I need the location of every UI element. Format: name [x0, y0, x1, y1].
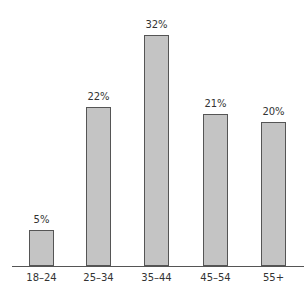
x-tick-label: 25–34	[74, 272, 124, 283]
bar-4	[261, 122, 286, 266]
x-axis-line	[12, 266, 304, 267]
value-label: 20%	[249, 106, 299, 117]
value-label: 22%	[74, 91, 124, 102]
x-tick-label: 35–44	[132, 272, 182, 283]
value-label: 5%	[17, 214, 67, 225]
x-tick-label: 45–54	[191, 272, 241, 283]
value-label: 21%	[191, 98, 241, 109]
bar-0	[29, 230, 54, 266]
bar-1	[86, 107, 111, 266]
x-tick-label: 55+	[249, 272, 299, 283]
bar-3	[203, 114, 228, 266]
value-label: 32%	[132, 19, 182, 30]
bar-chart: 5%18–2422%25–3432%35–4421%45–5420%55+	[0, 0, 308, 301]
bar-2	[144, 35, 169, 266]
x-tick-label: 18–24	[17, 272, 67, 283]
